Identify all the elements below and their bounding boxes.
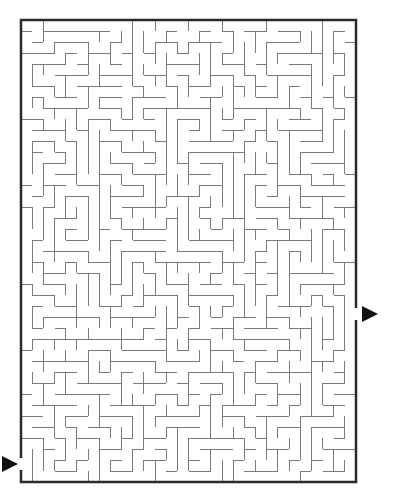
- maze-walls: [21, 20, 356, 482]
- maze-board: [0, 0, 396, 501]
- entrance-arrow-icon: [2, 456, 18, 472]
- exit-arrow-icon: [362, 306, 378, 322]
